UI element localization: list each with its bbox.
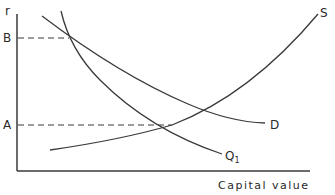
q1-main: Q: [225, 149, 234, 163]
y-mark-a: A: [3, 118, 12, 132]
economic-diagram: r Capital value B A S D Q1: [0, 0, 335, 195]
x-axis-label: Capital value: [218, 179, 310, 192]
q1-subscript: 1: [234, 156, 239, 165]
curve-label-s: S: [320, 6, 328, 20]
curve-label-q1: Q1: [225, 149, 240, 165]
curve-d: [42, 16, 265, 123]
y-mark-b: B: [3, 31, 11, 45]
curve-label-d: D: [270, 118, 279, 132]
y-axis-label: r: [5, 4, 10, 18]
